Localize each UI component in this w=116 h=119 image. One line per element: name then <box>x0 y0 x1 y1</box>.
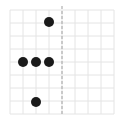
dot <box>18 57 28 67</box>
dot <box>31 57 41 67</box>
dot-grid-diagram <box>0 0 116 119</box>
dot <box>31 97 41 107</box>
dot <box>44 57 54 67</box>
dot <box>44 17 54 27</box>
